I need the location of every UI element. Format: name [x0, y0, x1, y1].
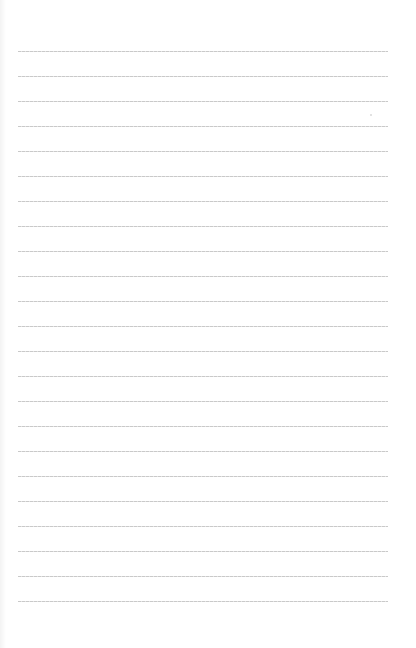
ruled-line [18, 576, 388, 577]
ruled-line [18, 251, 388, 252]
ruled-line [18, 376, 388, 377]
ruled-line [18, 276, 388, 277]
ruled-line [18, 101, 388, 102]
ruled-line [18, 51, 388, 52]
ruled-line [18, 476, 388, 477]
ruled-line [18, 226, 388, 227]
ruled-line [18, 501, 388, 502]
ruled-line [18, 76, 388, 77]
paper-speck [370, 114, 372, 116]
ruled-line [18, 301, 388, 302]
ruled-line [18, 551, 388, 552]
ruled-line [18, 401, 388, 402]
ruled-line [18, 451, 388, 452]
ruled-line [18, 601, 388, 602]
ruled-line [18, 126, 388, 127]
ruled-line [18, 151, 388, 152]
ruled-line [18, 326, 388, 327]
ruled-line [18, 176, 388, 177]
ruled-line [18, 201, 388, 202]
ruled-line [18, 351, 388, 352]
lined-paper-sheet [0, 0, 416, 648]
ruled-line [18, 426, 388, 427]
ruled-line [18, 526, 388, 527]
